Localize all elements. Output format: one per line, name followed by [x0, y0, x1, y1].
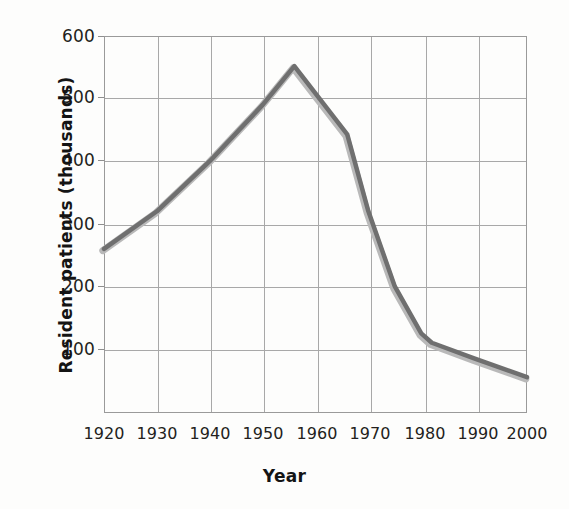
gridline-x-1930 [158, 37, 159, 412]
xtick-label-1950: 1950 [233, 424, 293, 443]
xtick-label-2000: 2000 [497, 424, 557, 443]
ytick-label-600: 600 [55, 26, 95, 46]
ytick-mark-400 [98, 160, 104, 161]
ytick-mark-500 [98, 97, 104, 98]
gridline-y-400 [105, 161, 526, 162]
line-chart-figure: 600 500 400 300 200 100 1920 1930 1940 1… [0, 0, 569, 509]
ytick-mark-600 [98, 36, 104, 37]
xtick-label-1930: 1930 [127, 424, 187, 443]
gridline-x-1990 [479, 37, 480, 412]
plot-area [104, 36, 527, 413]
xtick-label-1980: 1980 [395, 424, 455, 443]
xtick-label-1970: 1970 [340, 424, 400, 443]
gridline-y-300 [105, 225, 526, 226]
gridline-x-1980 [426, 37, 427, 412]
ytick-mark-100 [98, 349, 104, 350]
ytick-mark-300 [98, 224, 104, 225]
ytick-mark-200 [98, 286, 104, 287]
gridline-x-1970 [371, 37, 372, 412]
gridline-y-100 [105, 350, 526, 351]
xtick-label-1960: 1960 [287, 424, 347, 443]
xtick-label-1920: 1920 [74, 424, 134, 443]
gridline-x-1940 [211, 37, 212, 412]
gridline-y-500 [105, 98, 526, 99]
gridline-y-200 [105, 287, 526, 288]
gridline-x-1960 [318, 37, 319, 412]
xtick-label-1940: 1940 [180, 424, 240, 443]
y-axis-title: Resident patients (thousands) [56, 55, 76, 395]
gridline-x-1950 [264, 37, 265, 412]
x-axis-title: Year [0, 466, 569, 486]
